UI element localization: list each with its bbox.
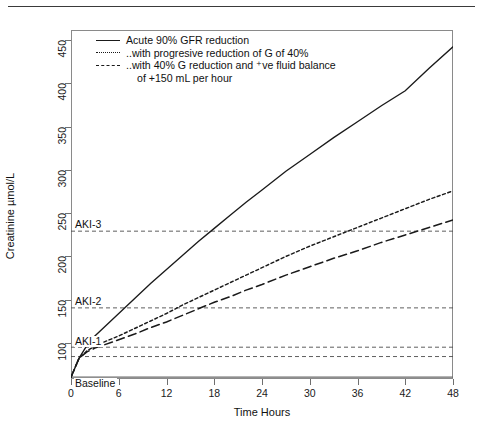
legend-key-dotted-icon bbox=[96, 52, 120, 53]
y-axis-title: Creatinine µmol/L bbox=[4, 172, 16, 258]
x-tick-mark bbox=[310, 379, 311, 385]
legend-label: ..with progresive reduction of G of 40% bbox=[126, 47, 309, 60]
y-axis: Creatinine µmol/L 100 150 200 250 300 bbox=[0, 10, 71, 421]
x-tick-mark bbox=[119, 379, 120, 385]
x-tick-label: 30 bbox=[304, 387, 316, 399]
legend-key-dashed-icon bbox=[96, 65, 120, 66]
x-tick-label: 24 bbox=[256, 387, 268, 399]
y-tick-label: 450 bbox=[56, 40, 68, 58]
y-tick-label: 200 bbox=[56, 256, 68, 274]
y-tick-label: 300 bbox=[56, 170, 68, 188]
y-tick-label: 400 bbox=[56, 83, 68, 101]
x-tick-mark bbox=[214, 379, 215, 385]
x-axis-title: Time Hours bbox=[234, 406, 290, 418]
x-tick-mark bbox=[262, 379, 263, 385]
y-tick-label: 250 bbox=[56, 213, 68, 231]
x-tick-mark bbox=[71, 379, 72, 385]
x-tick-mark bbox=[405, 379, 406, 385]
y-tick-label: 350 bbox=[56, 127, 68, 145]
legend-item-solid: Acute 90% GFR reduction bbox=[96, 34, 386, 47]
data-series bbox=[71, 47, 453, 377]
legend-continuation: of +150 mL per hour bbox=[137, 72, 232, 85]
legend: Acute 90% GFR reduction ..with progresiv… bbox=[96, 34, 386, 84]
page-top-rule bbox=[8, 6, 475, 7]
legend-key-solid-icon bbox=[96, 40, 120, 41]
legend-continuation-row: of +150 mL per hour bbox=[96, 72, 386, 85]
threshold-label-aki3: AKI-3 bbox=[74, 219, 103, 230]
x-tick-label: 12 bbox=[161, 387, 173, 399]
y-tick-label: 100 bbox=[56, 343, 68, 361]
x-tick-label: 6 bbox=[116, 387, 122, 399]
threshold-label-aki1: AKI-1 bbox=[74, 336, 103, 347]
chart-figure: Creatinine µmol/L 100 150 200 250 300 bbox=[0, 10, 483, 421]
x-tick-label: 36 bbox=[352, 387, 364, 399]
figure-page: Creatinine µmol/L 100 150 200 250 300 bbox=[0, 0, 483, 421]
y-tick-label: 150 bbox=[56, 300, 68, 318]
legend-label: ..with 40% G reduction and ⁺ve fluid bal… bbox=[126, 59, 336, 72]
legend-label: Acute 90% GFR reduction bbox=[126, 34, 249, 47]
threshold-label-aki2: AKI-2 bbox=[74, 296, 103, 307]
x-tick-mark bbox=[167, 379, 168, 385]
x-tick-mark bbox=[453, 379, 454, 385]
legend-item-dotted: ..with progresive reduction of G of 40% bbox=[96, 47, 386, 60]
legend-item-dashed: ..with 40% G reduction and ⁺ve fluid bal… bbox=[96, 59, 386, 72]
x-tick-label: 0 bbox=[68, 387, 74, 399]
series-line-dashed bbox=[71, 220, 453, 377]
x-tick-mark bbox=[358, 379, 359, 385]
x-tick-label: 42 bbox=[399, 387, 411, 399]
x-axis: 0 6 12 18 24 30 bbox=[0, 379, 483, 421]
x-tick-label: 48 bbox=[447, 387, 459, 399]
x-tick-label: 18 bbox=[208, 387, 220, 399]
